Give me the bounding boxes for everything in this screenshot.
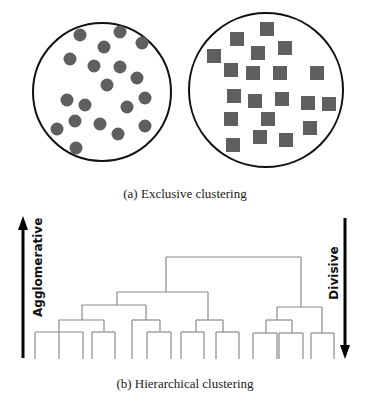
circle-point bbox=[121, 101, 134, 114]
circle-points bbox=[51, 26, 152, 155]
square-point bbox=[279, 133, 293, 147]
square-point bbox=[251, 46, 265, 60]
circle-point bbox=[139, 92, 152, 105]
square-point bbox=[207, 49, 221, 63]
circle-point bbox=[70, 142, 83, 155]
caption-hierarchical-clustering: (b) Hierarchical clustering bbox=[0, 376, 370, 392]
caption-exclusive-clustering: (a) Exclusive clustering bbox=[0, 186, 370, 202]
circle-point bbox=[51, 123, 64, 136]
square-point bbox=[224, 63, 238, 77]
circle-point bbox=[114, 26, 127, 39]
agglomerative-arrow bbox=[18, 216, 28, 358]
circle-point bbox=[94, 118, 107, 131]
circle-point bbox=[136, 37, 149, 50]
circle-point bbox=[114, 61, 127, 74]
circle-point bbox=[69, 115, 82, 128]
square-point bbox=[303, 121, 317, 135]
square-point bbox=[248, 94, 262, 108]
square-point bbox=[278, 41, 292, 55]
circle-point bbox=[139, 120, 152, 133]
square-point bbox=[246, 66, 260, 80]
divisive-label: Divisive bbox=[327, 238, 341, 308]
square-point bbox=[227, 89, 241, 103]
hierarchical-clustering-panel bbox=[18, 216, 350, 359]
square-point bbox=[260, 22, 274, 36]
agglomerative-label: Agglomerative bbox=[31, 227, 45, 317]
circle-point bbox=[74, 29, 87, 42]
square-point bbox=[275, 92, 289, 106]
circle-point bbox=[88, 60, 101, 73]
clustering-figure bbox=[0, 0, 370, 408]
exclusive-clustering-panel bbox=[33, 13, 343, 167]
square-point bbox=[226, 138, 240, 152]
square-point bbox=[230, 32, 244, 46]
circle-point bbox=[101, 79, 114, 92]
circle-point bbox=[112, 128, 125, 141]
square-point bbox=[261, 112, 275, 126]
circle-point bbox=[98, 41, 111, 54]
circle-point bbox=[61, 94, 74, 107]
square-point bbox=[224, 112, 238, 126]
circle-point bbox=[131, 72, 144, 85]
circle-point bbox=[79, 99, 92, 112]
divisive-arrow bbox=[340, 218, 350, 359]
square-points bbox=[207, 22, 336, 152]
circle-point bbox=[64, 53, 77, 66]
dendrogram bbox=[35, 257, 334, 359]
square-point bbox=[322, 97, 336, 111]
square-point bbox=[310, 66, 324, 80]
square-point bbox=[273, 66, 287, 80]
square-point bbox=[253, 130, 267, 144]
square-point bbox=[301, 96, 315, 110]
